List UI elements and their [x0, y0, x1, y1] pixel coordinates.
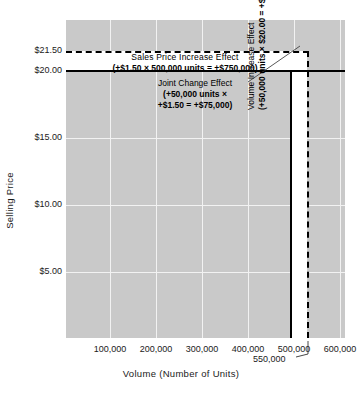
revenue-variance-chart: $21.50 $20.00 $15.00 $10.00 $5.00 100,00… [0, 0, 362, 393]
x-tick-label-550000: 550,000 [253, 355, 286, 364]
annotation-joint-line2: (+50,000 units × [130, 89, 260, 100]
annotation-joint-change-effect: Joint Change Effect (+50,000 units × +$1… [130, 78, 260, 111]
annotation-joint-line1: Joint Change Effect [130, 78, 260, 89]
annotation-volume-increase-effect: Volume Increase Effect (+50,000 units × … [246, 0, 268, 110]
x-axis-title: Volume (Number of Units) [0, 368, 362, 379]
y-axis-title: Selling Price [4, 161, 15, 241]
x-tick-550000-leader-line [296, 341, 310, 359]
annotation-volume-line2: (+50,000 units × $20.00 = +$1,000,000) [257, 0, 268, 110]
x-tick-label: 600,000 [310, 345, 362, 354]
annotation-joint-line3: +$1.50 = +$75,000) [130, 100, 260, 111]
annotation-volume-line1: Volume Increase Effect [246, 0, 257, 110]
